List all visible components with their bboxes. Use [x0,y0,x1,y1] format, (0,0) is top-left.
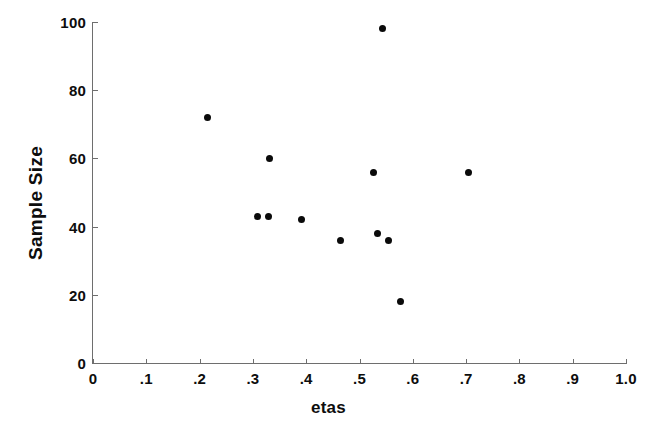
data-point [254,213,261,220]
scatter-plot-figure: 020406080100 0.1.2.3.4.5.6.7.8.91.0 Samp… [0,0,657,444]
x-tick-mark [519,359,520,364]
y-tick-mark [93,295,98,296]
y-tick-mark [93,227,98,228]
y-tick-mark [93,90,98,91]
data-point [385,237,392,244]
x-tick-mark [253,359,254,364]
x-tick-label: .3 [231,370,275,387]
x-tick-label: .1 [124,370,168,387]
x-tick-mark [93,359,94,364]
x-tick-mark [306,359,307,364]
data-point [370,169,377,176]
y-tick-label: 80 [40,82,86,99]
y-tick-mark [93,22,98,23]
data-point [465,169,472,176]
y-tick-label: 100 [40,14,86,31]
data-point [337,237,344,244]
y-tick-mark [93,158,98,159]
x-tick-label: 1.0 [604,370,648,387]
data-point [374,230,381,237]
y-tick-label: 20 [40,286,86,303]
x-tick-label: .9 [551,370,595,387]
y-tick-label: 0 [40,355,86,372]
x-tick-mark [626,359,627,364]
x-tick-label: .4 [284,370,328,387]
x-tick-mark [146,359,147,364]
x-tick-mark [466,359,467,364]
x-tick-label: .7 [444,370,488,387]
x-tick-mark [413,359,414,364]
x-tick-label: .2 [178,370,222,387]
x-tick-label: .5 [338,370,382,387]
x-tick-label: .8 [497,370,541,387]
x-tick-label: .6 [391,370,435,387]
data-point [266,155,273,162]
data-point [397,298,404,305]
data-point [298,216,305,223]
data-point [204,114,211,121]
x-axis-title: etas [0,398,657,418]
data-point [379,25,386,32]
x-tick-label: 0 [71,370,115,387]
x-tick-mark [200,359,201,364]
y-axis-title: Sample Size [25,123,47,283]
x-tick-mark [573,359,574,364]
x-tick-mark [360,359,361,364]
data-point [265,213,272,220]
y-axis-line [92,22,93,364]
